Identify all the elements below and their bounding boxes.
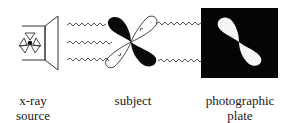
label-line: source: [5, 108, 61, 123]
label-xray-source: x-ray source: [5, 93, 61, 123]
radiation-symbol-icon: [19, 33, 41, 53]
xray-source-icon: [22, 16, 58, 70]
photographic-plate: [201, 8, 278, 78]
label-line: photographic: [200, 93, 280, 108]
label-line: x-ray: [5, 93, 61, 108]
subject-orbital: [106, 16, 157, 68]
label-subject: subject: [105, 93, 161, 108]
xray-waves: [67, 22, 202, 62]
label-line: subject: [105, 93, 161, 108]
label-photographic-plate: photographic plate: [200, 93, 280, 123]
label-line: plate: [200, 108, 280, 123]
